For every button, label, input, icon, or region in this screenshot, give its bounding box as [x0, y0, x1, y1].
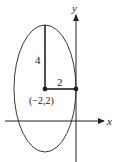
ellipse-diagram: x y 4 2 (−2,2) — [0, 0, 118, 162]
x-axis-label: x — [106, 115, 112, 127]
y-axis-label: y — [71, 2, 77, 14]
horizontal-radius-label: 2 — [57, 76, 63, 88]
vertical-radius-label: 4 — [35, 54, 41, 66]
center-label: (−2,2) — [29, 95, 54, 107]
center-point — [43, 87, 48, 92]
vertex-point — [74, 87, 79, 92]
